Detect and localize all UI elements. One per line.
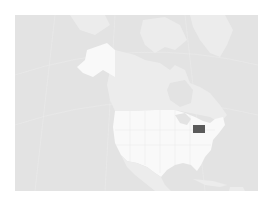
highlight-pennsylvania (193, 125, 205, 133)
caribbean-islands (229, 187, 245, 191)
locator-map: Locator map of Pennsylvania in North Ame… (15, 15, 258, 191)
